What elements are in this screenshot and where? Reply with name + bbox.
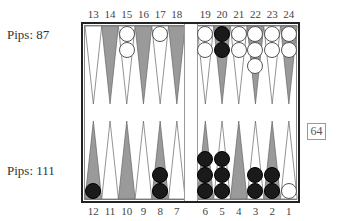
point-13[interactable] <box>85 26 102 104</box>
point-label-24: 24 <box>280 8 297 20</box>
white-checker[interactable] <box>281 26 297 42</box>
point-label-13: 13 <box>85 8 102 20</box>
point-4[interactable] <box>230 121 247 199</box>
point-label-23: 23 <box>264 8 281 20</box>
point-label-21: 21 <box>230 8 247 20</box>
backgammon-board[interactable] <box>81 22 300 203</box>
black-checker[interactable] <box>214 183 230 199</box>
point-11[interactable] <box>102 121 119 199</box>
point-label-11: 11 <box>102 205 119 217</box>
white-checker[interactable] <box>119 26 135 42</box>
point-label-22: 22 <box>247 8 264 20</box>
point-18[interactable] <box>169 26 186 104</box>
point-label-15: 15 <box>118 8 135 20</box>
point-label-12: 12 <box>85 205 102 217</box>
black-checker[interactable] <box>214 151 230 167</box>
point-label-16: 16 <box>135 8 152 20</box>
bottom-player-pip-count: Pips: 111 <box>7 163 55 179</box>
point-label-4: 4 <box>230 205 247 217</box>
point-label-14: 14 <box>102 8 119 20</box>
point-14[interactable] <box>102 26 119 104</box>
point-label-20: 20 <box>214 8 231 20</box>
white-checker[interactable] <box>231 26 247 42</box>
point-label-5: 5 <box>214 205 231 217</box>
black-checker[interactable] <box>214 42 230 58</box>
bar[interactable] <box>184 24 198 201</box>
point-label-17: 17 <box>152 8 169 20</box>
point-label-3: 3 <box>247 205 264 217</box>
point-label-18: 18 <box>168 8 185 20</box>
point-label-19: 19 <box>197 8 214 20</box>
white-checker[interactable] <box>119 42 135 58</box>
white-checker[interactable] <box>281 42 297 58</box>
white-checker[interactable] <box>231 42 247 58</box>
point-label-9: 9 <box>135 205 152 217</box>
doubling-cube[interactable]: 64 <box>307 123 326 140</box>
point-label-8: 8 <box>152 205 169 217</box>
point-label-1: 1 <box>280 205 297 217</box>
point-label-10: 10 <box>118 205 135 217</box>
point-10[interactable] <box>118 121 135 199</box>
black-checker[interactable] <box>214 26 230 42</box>
top-player-pip-count: Pips: 87 <box>7 27 49 43</box>
point-label-2: 2 <box>264 205 281 217</box>
point-label-7: 7 <box>168 205 185 217</box>
white-checker[interactable] <box>281 183 297 199</box>
black-checker[interactable] <box>214 167 230 183</box>
point-7[interactable] <box>169 121 186 199</box>
point-16[interactable] <box>135 26 152 104</box>
point-9[interactable] <box>135 121 152 199</box>
point-label-6: 6 <box>197 205 214 217</box>
